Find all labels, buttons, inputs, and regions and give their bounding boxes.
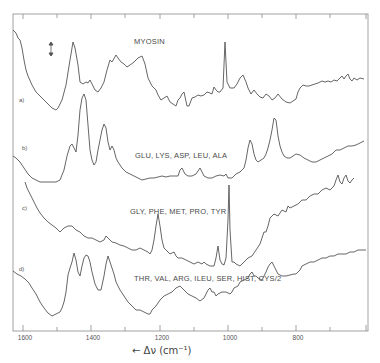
tick-label-1000: 1000 — [223, 334, 237, 341]
top-ticks — [23, 14, 366, 19]
trace-label-b: b) — [22, 145, 27, 151]
label-myosin: MYOSIN — [134, 37, 165, 46]
intensity-scale-bar-icon — [49, 42, 53, 56]
trace-d-thr-val-arg-ileu-ser-hist-cys — [13, 250, 366, 316]
bottom-ticks — [23, 325, 366, 331]
trace-c-gly-phe-met-pro-tyr — [25, 175, 354, 266]
trace-b-glu-lys-asp-leu-ala — [13, 94, 364, 182]
trace-a-myosin — [13, 30, 364, 110]
plot-frame — [13, 14, 368, 331]
raman-spectra-figure: MYOSIN GLU, LYS, ASP, LEU, ALA GLY, PHE,… — [0, 0, 380, 363]
tick-label-1400: 1400 — [86, 334, 100, 341]
tick-label-800: 800 — [293, 334, 304, 341]
x-axis-label: ← Δν (cm⁻¹) — [132, 345, 192, 356]
label-trace-c-composition: GLY, PHE, MET, PRO, TYR — [130, 207, 226, 216]
trace-label-d: d) — [19, 266, 24, 272]
chart-svg — [0, 0, 380, 363]
tick-label-1200: 1200 — [155, 334, 169, 341]
label-trace-b-composition: GLU, LYS, ASP, LEU, ALA — [135, 151, 227, 160]
trace-label-a: a) — [19, 97, 24, 103]
tick-label-1600: 1600 — [18, 334, 32, 341]
label-trace-d-composition: THR, VAL, ARG, ILEU, SER, HIST, CYS/2 — [134, 274, 281, 283]
trace-label-c: c) — [22, 205, 27, 211]
